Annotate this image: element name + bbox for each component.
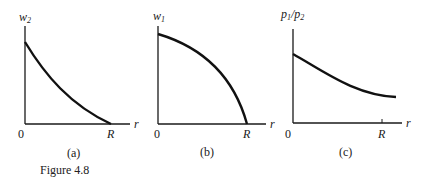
panel-b-origin-label: 0 <box>154 127 160 141</box>
panel-c-r-marker: R <box>377 127 386 141</box>
panel-a-y-label: w2 <box>19 10 31 25</box>
panel-a-r-marker: R <box>106 127 115 141</box>
panel-c-origin-label: 0 <box>285 127 291 141</box>
panel-a-curve <box>25 42 111 124</box>
panel-c-y-label: p1/p2 <box>280 7 304 22</box>
panel-b-y-label: w1 <box>153 9 165 24</box>
panel-b-x-label: r <box>270 117 275 131</box>
panel-a-origin-label: 0 <box>18 127 24 141</box>
figure-4-8: w2 r 0 R (a) Figure 4.8 w1 r 0 R (b) p1/… <box>0 0 428 177</box>
panel-a-caption: (a) <box>67 146 80 160</box>
panel-b: w1 r 0 R (b) <box>153 9 275 159</box>
panel-c-curve <box>293 54 396 97</box>
figure-caption: Figure 4.8 <box>40 163 89 177</box>
panel-c-x-label: r <box>406 116 411 130</box>
panel-b-caption: (b) <box>200 145 214 159</box>
panel-c: p1/p2 r 0 R (c) <box>280 7 411 159</box>
panel-a-x-label: r <box>134 117 139 131</box>
panel-a: w2 r 0 R (a) <box>18 10 139 160</box>
panel-c-caption: (c) <box>339 145 352 159</box>
panel-b-r-marker: R <box>242 127 251 141</box>
panel-b-curve <box>158 34 247 124</box>
